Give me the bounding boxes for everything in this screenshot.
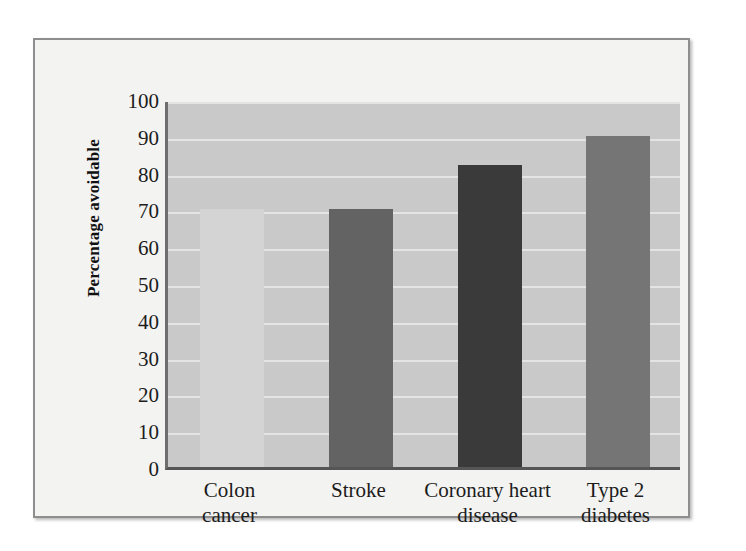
y-tick-label: 0 [111,459,159,480]
x-label-line: Type 2 [551,478,680,503]
bar-coronary-heart-disease[interactable] [458,165,522,467]
x-label-line: Stroke [294,478,423,503]
chart-page: Percentage avoidable 1009080706050403020… [0,0,746,551]
y-tick-label: 80 [111,165,159,186]
x-label-line: Colon [165,478,294,503]
y-tick-label: 100 [111,91,159,112]
bar-stroke[interactable] [329,209,393,467]
x-label-line: cancer [165,503,294,528]
bar-type-2-diabetes[interactable] [586,136,650,467]
y-tick-label: 50 [111,275,159,296]
x-label-coronary-heart-disease: Coronary heartdisease [423,478,552,528]
y-tick-label: 30 [111,349,159,370]
x-label-line: Coronary heart [423,478,552,503]
bar-colon-cancer[interactable] [200,209,264,467]
y-tick-label: 60 [111,238,159,259]
x-label-stroke: Stroke [294,478,423,503]
y-axis-title: Percentage avoidable [84,113,104,323]
y-tick-label: 20 [111,385,159,406]
y-tick-label: 40 [111,312,159,333]
x-label-line: diabetes [551,503,680,528]
gridline [168,102,680,104]
y-tick-label: 90 [111,128,159,149]
plot-area [165,102,680,470]
figure-frame: Percentage avoidable 1009080706050403020… [33,38,690,518]
plot-inner [168,102,680,467]
x-label-colon-cancer: Coloncancer [165,478,294,528]
y-tick-label: 70 [111,201,159,222]
y-axis-tick-labels: 1009080706050403020100 [107,102,159,470]
x-axis-category-labels: ColoncancerStrokeCoronary heartdiseaseTy… [165,478,680,548]
x-label-type-2-diabetes: Type 2diabetes [551,478,680,528]
x-label-line: disease [423,503,552,528]
y-tick-label: 10 [111,422,159,443]
